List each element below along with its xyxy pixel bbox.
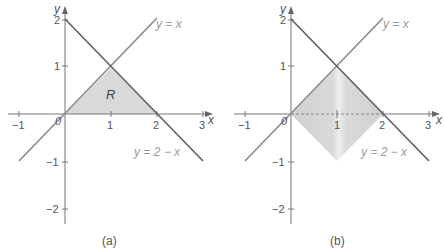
origin-label: 0 <box>55 115 62 127</box>
origin-label: 0 <box>281 115 288 127</box>
x-tick-label: 2 <box>379 119 385 131</box>
line-y-equals-2-minus-x <box>291 19 429 161</box>
y-tick-label: −2 <box>46 203 59 215</box>
panel-b: −1 0 1 2 3 2 1 −1 −2 x y y = x y = 2 − x… <box>234 2 443 248</box>
y-tick-label: −2 <box>272 203 285 215</box>
x-tick-label: 2 <box>153 119 159 131</box>
x-tick-label: −1 <box>238 119 251 131</box>
line-y-equals-2-minus-x <box>65 19 203 161</box>
y-axis-arrow-icon <box>288 6 294 14</box>
y-axis-label: y <box>53 2 61 16</box>
figure: −1 0 1 2 3 2 1 −1 −2 x y y = x y = 2 − x… <box>0 0 444 249</box>
region-r-label: R <box>106 87 115 102</box>
line-y-equals-x <box>19 18 157 161</box>
y-tick-label: −1 <box>46 156 59 168</box>
caption-a: (a) <box>102 234 117 248</box>
y-axis-label: y <box>279 2 287 16</box>
x-tick-label: 3 <box>425 119 431 131</box>
x-axis-label: x <box>207 113 215 127</box>
y-tick-label: 1 <box>54 60 60 72</box>
panel-a: −1 0 1 2 3 2 1 −1 −2 x y y = x y = 2 − x… <box>8 2 215 248</box>
x-axis-label: x <box>435 113 443 127</box>
caption-b: (b) <box>330 234 345 248</box>
x-tick-label: −1 <box>12 119 25 131</box>
label-y-equals-2-minus-x: y = 2 − x <box>133 145 181 159</box>
label-y-equals-x: y = x <box>155 17 183 31</box>
y-tick-label: 1 <box>280 60 286 72</box>
x-tick-label: 3 <box>199 119 205 131</box>
x-tick-label: 1 <box>334 119 340 131</box>
line-y-equals-x <box>245 18 383 161</box>
label-y-equals-x: y = x <box>382 17 410 31</box>
y-axis-arrow-icon <box>62 6 68 14</box>
label-y-equals-2-minus-x: y = 2 − x <box>360 145 408 159</box>
x-tick-label: 1 <box>107 119 113 131</box>
y-tick-label: −1 <box>272 156 285 168</box>
